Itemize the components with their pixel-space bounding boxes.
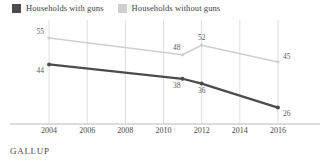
legend-label-households-without-guns: Households without guns [132, 3, 221, 13]
x-axis-labels: 2004200620082010201220142016 [0, 126, 327, 140]
data-point-label: 38 [173, 81, 181, 90]
x-axis-tick-2010: 2010 [156, 126, 172, 135]
x-axis-tick-2012: 2012 [194, 126, 210, 135]
legend-swatch-dark-icon [12, 4, 21, 13]
data-point-label: 36 [198, 86, 206, 95]
plot-svg: 5548524544383626 [0, 20, 327, 125]
data-point-label: 55 [37, 27, 45, 36]
data-point-label: 26 [283, 109, 291, 118]
data-point-label: 44 [37, 66, 45, 75]
legend-item-households-with-guns: Households with guns [12, 3, 104, 13]
chart-legend: Households with guns Households without … [12, 3, 234, 13]
x-axis-tick-2008: 2008 [117, 126, 133, 135]
x-axis-tick-2014: 2014 [232, 126, 248, 135]
gallup-line-chart: Households with guns Households without … [0, 0, 327, 168]
legend-item-households-without-guns: Households without guns [118, 3, 221, 13]
x-axis-tick-2006: 2006 [79, 126, 95, 135]
legend-label-households-with-guns: Households with guns [26, 3, 104, 13]
x-axis-tick-2004: 2004 [41, 126, 57, 135]
source-label: GALLUP [10, 146, 50, 156]
legend-swatch-light-icon [118, 4, 127, 13]
gridlines [49, 20, 278, 124]
data-point-label: 48 [173, 43, 181, 52]
data-point-label: 45 [283, 52, 291, 61]
plot-area: 5548524544383626 [0, 20, 327, 125]
data-point-label: 52 [198, 33, 206, 42]
x-axis-tick-2016: 2016 [270, 126, 286, 135]
